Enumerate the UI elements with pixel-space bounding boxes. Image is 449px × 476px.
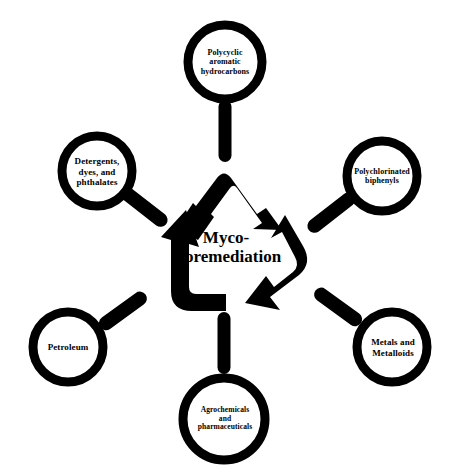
magnifier-petroleum [33,289,150,382]
magnifier-metals-and-metalloids [311,285,427,382]
magnifier-handle-top [219,100,232,162]
mycoremediation-diagram: Polycyclic aromatic hydrocarbons Deterge… [0,0,449,476]
magnifier-polychlorinated-biphenyls [305,141,417,236]
diagram-canvas [0,0,449,476]
magnifier-handle-bottom [218,312,231,374]
magnifier-ring-upper-left [62,136,132,206]
magnifier-polycyclic-aromatic-hydrocarbons [188,25,262,162]
magnifier-handle-lower-left [96,289,150,333]
magnifier-ring-bottom [183,378,265,460]
magnifier-ring-lower-right [357,312,427,382]
magnifier-agrochemicals-and-pharmaceuticals [183,312,265,460]
recycling-arrows-group [161,174,307,312]
magnifier-handle-lower-right [311,285,365,329]
magnifier-ring-upper-right [347,141,417,211]
magnifier-ring-lower-left [33,312,103,382]
magnifier-ring-top [188,25,262,99]
magnifier-detergents-dyes-phthalates [62,136,170,230]
